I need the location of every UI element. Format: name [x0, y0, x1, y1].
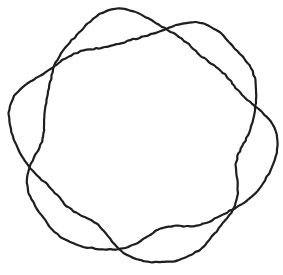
figure-canvas	[0, 0, 283, 275]
interlaced-rings-drawing	[0, 0, 283, 275]
